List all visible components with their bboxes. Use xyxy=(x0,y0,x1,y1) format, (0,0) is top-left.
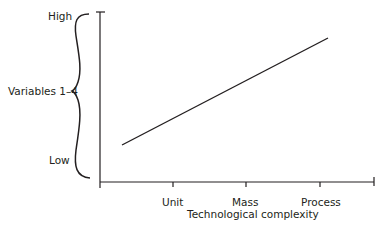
trend-line xyxy=(122,38,328,145)
y-axis-label: Variables 1–4 xyxy=(8,86,78,97)
x-label-process: Process xyxy=(301,197,341,208)
x-axis-title: Technological complexity xyxy=(187,209,319,220)
x-label-unit: Unit xyxy=(162,197,183,208)
y-label-low: Low xyxy=(49,155,70,166)
x-label-mass: Mass xyxy=(232,197,258,208)
diagram-canvas xyxy=(0,0,382,228)
y-label-high: High xyxy=(48,11,72,22)
